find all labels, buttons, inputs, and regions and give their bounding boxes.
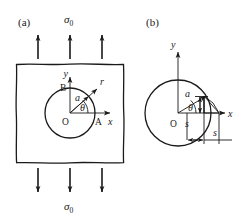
panel-b-horizontal-dim-label: s <box>213 127 217 138</box>
panel-b: (b) y x a θ O <box>145 16 233 146</box>
panel-a-top-stress-label: σ0 <box>64 13 73 28</box>
panel-a-bottom-stress-label: σ0 <box>64 200 73 215</box>
panel-b-x-axis-label: x <box>227 108 233 119</box>
figure-canvas: (a) σ0 y x r <box>0 0 249 216</box>
panel-a-point-a-label: A <box>95 117 102 127</box>
panel-b-radius-label: a <box>185 88 190 99</box>
panel-a-x-axis-label: x <box>107 116 113 127</box>
panel-a-y-axis-label: y <box>63 68 69 79</box>
panel-a-bottom-stress-arrows <box>38 168 102 192</box>
panel-a-radial-label: r <box>100 76 104 87</box>
panel-a-point-b-label: B <box>60 83 66 93</box>
panel-a-angle-label: θ <box>80 102 85 113</box>
sigma-symbol-top: σ0 <box>64 13 73 28</box>
figure-root: (a) σ0 y x r <box>0 0 249 216</box>
panel-a-origin-label: O <box>62 117 69 127</box>
panel-b-angle-label: θ <box>188 102 193 113</box>
panel-a: (a) σ0 y x r <box>16 13 124 215</box>
panel-a-top-stress-arrows <box>38 35 102 59</box>
panel-a-label: (a) <box>18 16 31 29</box>
panel-b-label: (b) <box>146 16 159 29</box>
panel-b-origin-label: O <box>170 119 177 129</box>
sigma-symbol-bottom: σ0 <box>64 200 73 215</box>
panel-b-y-axis-label: y <box>170 39 176 50</box>
